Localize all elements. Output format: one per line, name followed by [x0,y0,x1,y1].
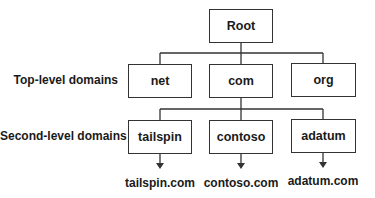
tld-label: com [228,74,254,88]
tld-node-org: org [291,63,356,97]
tld-label: org [313,73,333,87]
second-level-domains-label: Second-level domains [0,129,118,143]
connector-lines [0,0,375,198]
root-node: Root [209,9,273,43]
sld-node-tailspin: tailspin [128,120,192,154]
fqdn-contoso: contoso.com [196,176,286,190]
root-label: Root [227,19,255,33]
sld-node-adatum: adatum [291,119,356,153]
sld-label: contoso [217,130,266,144]
arrow-down-icon [319,162,327,168]
arrow-down-icon [237,163,245,169]
fqdn-adatum: adatum.com [278,174,368,188]
fqdn-tailspin: tailspin.com [115,176,205,190]
tld-node-net: net [128,64,192,98]
tld-node-com: com [209,64,273,98]
sld-label: adatum [301,129,345,143]
sld-label: tailspin [138,130,182,144]
tld-label: net [151,74,170,88]
sld-node-contoso: contoso [209,120,273,154]
arrow-down-icon [156,163,164,169]
top-level-domains-label: Top-level domains [0,73,118,87]
